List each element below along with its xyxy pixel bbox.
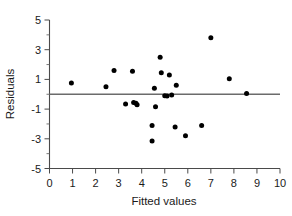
data-point bbox=[123, 101, 128, 106]
data-point bbox=[112, 68, 117, 73]
data-point bbox=[174, 83, 179, 88]
data-point bbox=[158, 55, 163, 60]
x-tick-label: 1 bbox=[69, 177, 75, 189]
data-point bbox=[165, 94, 170, 99]
x-tick-label: 5 bbox=[162, 177, 168, 189]
x-tick-label: 0 bbox=[46, 177, 52, 189]
x-tick-label: 6 bbox=[185, 177, 191, 189]
data-point bbox=[103, 84, 108, 89]
data-point bbox=[150, 123, 155, 128]
y-axis-title: Residuals bbox=[4, 69, 16, 120]
data-point bbox=[227, 76, 232, 81]
data-point bbox=[167, 72, 172, 77]
y-tick-label: 1 bbox=[35, 73, 41, 85]
data-point bbox=[152, 86, 157, 91]
y-axis-tick-labels: -5-3-1135 bbox=[31, 14, 41, 175]
x-tick-label: 7 bbox=[208, 177, 214, 189]
residual-plot-figure: -5-3-1135 012345678910 Fitted values Res… bbox=[0, 0, 292, 216]
x-tick-label: 10 bbox=[274, 177, 286, 189]
data-point bbox=[153, 104, 158, 109]
y-tick-label: 3 bbox=[35, 44, 41, 56]
x-axis-title: Fitted values bbox=[131, 195, 196, 207]
y-tick-label: -3 bbox=[31, 133, 41, 145]
y-tick-label: 5 bbox=[35, 14, 41, 26]
x-axis-tick-labels: 012345678910 bbox=[46, 177, 286, 189]
x-axis-major-ticks bbox=[50, 169, 281, 174]
x-tick-label: 3 bbox=[116, 177, 122, 189]
data-point bbox=[169, 92, 174, 97]
data-point bbox=[69, 81, 74, 86]
x-tick-label: 8 bbox=[231, 177, 237, 189]
data-points-layer bbox=[69, 35, 249, 143]
scatter-plot-canvas: -5-3-1135 012345678910 Fitted values Res… bbox=[0, 0, 292, 216]
data-point bbox=[150, 139, 155, 144]
data-point bbox=[173, 124, 178, 129]
data-point bbox=[159, 70, 164, 75]
data-point bbox=[199, 123, 204, 128]
data-point bbox=[130, 69, 135, 74]
x-tick-label: 9 bbox=[254, 177, 260, 189]
data-point bbox=[208, 35, 213, 40]
data-point bbox=[244, 91, 249, 96]
data-point bbox=[183, 133, 188, 138]
x-tick-label: 2 bbox=[93, 177, 99, 189]
y-tick-label: -1 bbox=[31, 103, 41, 115]
y-tick-label: -5 bbox=[31, 163, 41, 175]
data-point bbox=[135, 102, 140, 107]
x-tick-label: 4 bbox=[139, 177, 145, 189]
